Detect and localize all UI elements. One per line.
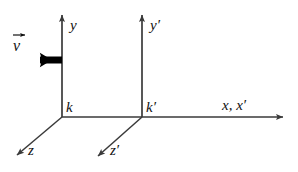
axis-label-z: z [27,142,34,158]
frame-label-k-prime: k′ [146,99,157,115]
diagram-canvas: v y y′ k k′ z z′ x, x′ [0,0,298,172]
velocity-label: v [13,37,21,54]
axis-label-z-prime: z′ [109,142,120,158]
axis-label-y-prime: y′ [148,17,161,33]
axis-line-z-prime [98,117,142,156]
axis-label-y: y [68,17,77,33]
axis-line-z [17,117,62,155]
frame-label-k: k [66,99,73,115]
reference-frames-diagram: v y y′ k k′ z z′ x, x′ [0,0,298,172]
axis-label-x-combined: x, x′ [221,97,247,113]
